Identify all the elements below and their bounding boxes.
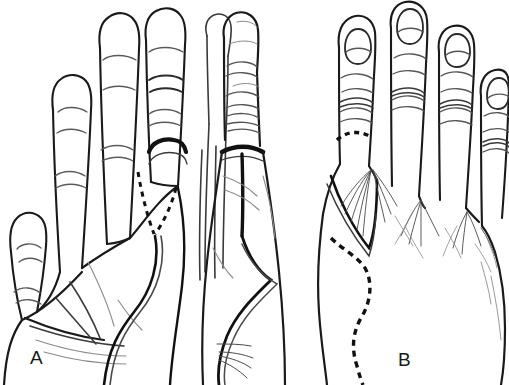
panel-a-drawing: [0, 0, 196, 385]
midaxial-line-b: [242, 154, 243, 236]
dashed-transverse-line-c: [337, 133, 369, 140]
triangular-flap-c: [327, 176, 377, 256]
curved-flap-outline-b: [218, 236, 277, 385]
panel-b-lateral-view: B: [193, 0, 315, 385]
panel-b-drawing: [193, 0, 315, 385]
panel-label-a: A: [30, 348, 43, 367]
dashed-v-incision-a: [138, 172, 176, 234]
panel-c-dorsal-view: C: [309, 0, 509, 385]
panel-c-drawing: [309, 0, 509, 385]
s-shaped-dashed-incision-c: [331, 238, 370, 385]
panel-a-palmar-view: A: [0, 0, 196, 385]
figure-root: A: [0, 0, 509, 385]
